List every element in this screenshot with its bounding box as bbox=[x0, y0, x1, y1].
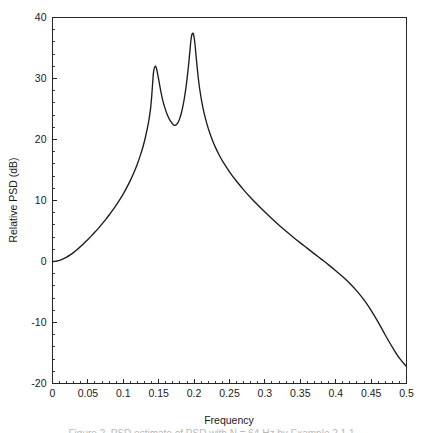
x-tick-label: 0.3 bbox=[258, 387, 273, 399]
x-tick-label: 0.25 bbox=[219, 387, 240, 399]
chart-figure: 00.050.10.150.20.250.30.350.40.450.5 -20… bbox=[0, 0, 423, 433]
x-tick-label: 0.5 bbox=[399, 387, 414, 399]
x-tick-label: 0.15 bbox=[148, 387, 169, 399]
figure-caption: Figure 2. PSD estimate of PSD with N = 6… bbox=[0, 424, 423, 433]
x-tick-label: 0.45 bbox=[361, 387, 382, 399]
chart-background bbox=[0, 0, 423, 433]
x-tick-label: 0.2 bbox=[187, 387, 202, 399]
x-tick-label: 0.4 bbox=[328, 387, 343, 399]
y-tick-label: 10 bbox=[35, 194, 47, 206]
y-axis-title: Relative PSD (dB) bbox=[7, 157, 19, 242]
y-tick-label: 40 bbox=[35, 11, 47, 23]
x-tick-label: 0.35 bbox=[290, 387, 311, 399]
y-tick-label: 0 bbox=[41, 255, 47, 267]
y-tick-label: 30 bbox=[35, 72, 47, 84]
x-tick-label: 0.1 bbox=[116, 387, 131, 399]
y-tick-label: -10 bbox=[31, 316, 46, 328]
psd-line-chart: 00.050.10.150.20.250.30.350.40.450.5 -20… bbox=[0, 0, 423, 433]
y-tick-label: 20 bbox=[35, 133, 47, 145]
y-tick-label: -20 bbox=[31, 377, 46, 389]
x-tick-label: 0.05 bbox=[78, 387, 99, 399]
x-tick-label: 0 bbox=[50, 387, 56, 399]
